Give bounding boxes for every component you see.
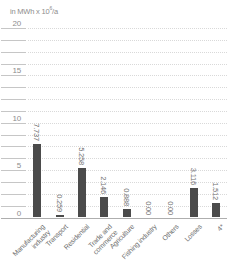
category-label: 4* [215,223,225,233]
y-axis-tick-mark [1,52,26,53]
bar-value-label: 7.737 [32,123,41,141]
y-axis-tick-mark [1,28,26,29]
y-axis-tick-mark [1,170,26,171]
bar [100,197,108,217]
y-axis-tick-mark [1,123,26,124]
bar-value-label: 2.146 [99,176,108,194]
y-axis-tick-mark [1,64,26,65]
bar [190,188,198,218]
y-tick-label: 0 [0,209,21,218]
gridline [28,111,227,112]
bar-value-label: 0.259 [55,194,64,212]
bar [212,203,220,217]
bar-value-label: 0.888 [122,188,131,206]
y-tick-label: 20 [0,19,21,28]
gridline [28,135,227,136]
bar-value-label: 0.00 [144,201,153,215]
gridline [28,28,227,29]
y-axis-tick-mark [1,182,26,183]
bar [123,209,131,217]
gridline [28,158,227,159]
y-axis-tick-mark [1,87,26,88]
gridline [28,75,227,76]
y-tick-label: 5 [0,161,21,170]
gridline [28,123,227,124]
category-label: Losses [183,223,203,243]
y-axis-tick-mark [1,146,26,147]
gridline [28,87,227,88]
energy-consumption-bar-chart: in MWh x 106/a 051015207.737Manufacturin… [0,0,227,276]
gridline [28,40,227,41]
y-axis-tick-mark [1,206,26,207]
bar-value-label: 3.116 [189,168,198,185]
gridline [28,146,227,147]
y-axis-tick-mark [1,40,26,41]
category-label: Others [161,223,180,242]
y-axis-tick-mark [1,135,26,136]
bar-value-label: 5.258 [77,147,86,165]
gridline [28,99,227,100]
bar [33,144,41,217]
gridline [28,52,227,53]
y-tick-label: 15 [0,66,21,75]
bar [78,168,86,218]
y-axis-tick-mark [1,194,26,195]
plot-area: 051015207.737Manufacturing industry0.259… [0,0,227,276]
y-tick-label: 10 [0,114,21,123]
y-axis-tick-mark [1,75,26,76]
y-axis-tick-mark [1,158,26,159]
x-axis-baseline [1,218,227,219]
bar-value-label: 1.512 [211,182,220,200]
y-axis-tick-mark [1,111,26,112]
bar-value-label: 0.00 [166,201,175,215]
gridline [28,64,227,65]
bar [56,215,64,217]
y-axis-tick-mark [1,99,26,100]
